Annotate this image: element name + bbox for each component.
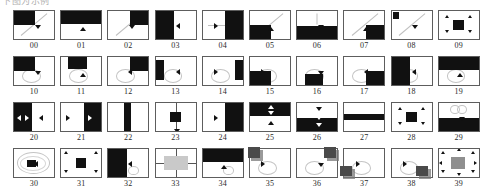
thumbnail-15[interactable] xyxy=(249,56,291,86)
thumbnail-23[interactable] xyxy=(155,102,197,132)
thumbnail-33[interactable] xyxy=(155,148,197,178)
grid-cell[interactable]: 21 xyxy=(60,102,107,148)
thumbnail-label: 12 xyxy=(107,87,149,97)
grid-cell[interactable]: 33 xyxy=(155,148,202,193)
grid-cell[interactable]: 03 xyxy=(155,10,202,56)
thumbnail-31[interactable] xyxy=(60,148,102,178)
grid-cell[interactable]: 39 xyxy=(438,148,485,193)
thumbnail-21[interactable] xyxy=(60,102,102,132)
grid-cell[interactable]: 28 xyxy=(391,102,438,148)
grid-cell[interactable]: 13 xyxy=(155,56,202,102)
thumbnail-13[interactable] xyxy=(155,56,197,86)
thumbnail-label: 32 xyxy=(107,179,149,189)
grid-cell[interactable]: 29 xyxy=(438,102,485,148)
grid-cell[interactable]: 11 xyxy=(60,56,107,102)
grid-cell[interactable]: 31 xyxy=(60,148,107,193)
grid-cell[interactable]: 35 xyxy=(249,148,296,193)
thumbnail-label: 14 xyxy=(202,87,244,97)
grid-cell[interactable]: 09 xyxy=(438,10,485,56)
thumbnail-10[interactable] xyxy=(13,56,55,86)
grid-cell[interactable]: 00 xyxy=(13,10,60,56)
grid-cell[interactable]: 25 xyxy=(249,102,296,148)
thumbnail-04[interactable] xyxy=(202,10,244,40)
grid-cell[interactable]: 19 xyxy=(438,56,485,102)
fill-region xyxy=(366,71,384,85)
thumbnail-34[interactable] xyxy=(202,148,244,178)
thumbnail-14[interactable] xyxy=(202,56,244,86)
thumbnail-35[interactable] xyxy=(249,148,291,178)
thumbnail-38[interactable] xyxy=(391,148,433,178)
grid-cell[interactable]: 05 xyxy=(249,10,296,56)
thumbnail-28[interactable] xyxy=(391,102,433,132)
grid-cell[interactable]: 34 xyxy=(202,148,249,193)
thumbnail-30[interactable] xyxy=(13,148,55,178)
thumbnail-24[interactable] xyxy=(202,102,244,132)
thumbnail-03[interactable] xyxy=(155,10,197,40)
thumbnail-20[interactable] xyxy=(13,102,55,132)
arrow-down-icon xyxy=(316,123,322,127)
grid-cell[interactable]: 26 xyxy=(296,102,343,148)
grid-cell[interactable]: 18 xyxy=(391,56,438,102)
thumbnail-26[interactable] xyxy=(296,102,338,132)
grid-cell[interactable]: 32 xyxy=(107,148,154,193)
arrow-up-icon xyxy=(221,165,227,169)
thumbnail-16[interactable] xyxy=(296,56,338,86)
fill-region xyxy=(393,12,399,18)
grid-cell[interactable]: 01 xyxy=(60,10,107,56)
grid-cell[interactable]: 10 xyxy=(13,56,60,102)
grid-cell[interactable]: 15 xyxy=(249,56,296,102)
grid-cell[interactable]: 36 xyxy=(296,148,343,193)
thumbnail-09[interactable] xyxy=(438,10,480,40)
thumbnail-08[interactable] xyxy=(391,10,433,40)
arrow-up-icon xyxy=(471,151,475,154)
arrow-down-icon xyxy=(268,111,274,115)
grid-cell[interactable]: 17 xyxy=(343,56,390,102)
thumbnail-05[interactable] xyxy=(249,10,291,40)
thumbnail-29[interactable] xyxy=(438,102,480,132)
thumbnail-label: 38 xyxy=(391,179,433,189)
grid-cell[interactable]: 16 xyxy=(296,56,343,102)
thumbnail-22[interactable] xyxy=(107,102,149,132)
grid-cell[interactable]: 12 xyxy=(107,56,154,102)
grid-cell[interactable]: 23 xyxy=(155,102,202,148)
grid-cell[interactable]: 22 xyxy=(107,102,154,148)
grid-cell[interactable]: 08 xyxy=(391,10,438,56)
grid-cell[interactable]: 06 xyxy=(296,10,343,56)
thumbnail-label: 17 xyxy=(343,87,385,97)
thumbnail-37[interactable] xyxy=(343,148,385,178)
grid-cell[interactable]: 14 xyxy=(202,56,249,102)
thumbnail-06[interactable] xyxy=(296,10,338,40)
thumbnail-11[interactable] xyxy=(60,56,102,86)
grid-cell[interactable]: 37 xyxy=(343,148,390,193)
thumbnail-32[interactable] xyxy=(107,148,149,178)
thumbnail-39[interactable] xyxy=(438,148,480,178)
grid-cell[interactable]: 20 xyxy=(13,102,60,148)
arrow-left-icon xyxy=(128,161,132,167)
grid-cell[interactable]: 04 xyxy=(202,10,249,56)
grid-cell[interactable]: 27 xyxy=(343,102,390,148)
thumbnail-label: 03 xyxy=(155,41,197,51)
thumbnail-36[interactable] xyxy=(296,148,338,178)
grid-cell[interactable]: 02 xyxy=(107,10,154,56)
arrow-up-icon xyxy=(457,73,463,77)
arrow-right-icon xyxy=(403,161,407,167)
thumbnail-00[interactable] xyxy=(13,10,55,40)
thumbnail-label: 29 xyxy=(438,133,480,143)
thumbnail-01[interactable] xyxy=(60,10,102,40)
fill-region xyxy=(124,103,130,131)
grid-cell[interactable]: 38 xyxy=(391,148,438,193)
arrow-up-icon xyxy=(468,15,472,18)
thumbnail-27[interactable] xyxy=(343,102,385,132)
thumbnail-18[interactable] xyxy=(391,56,433,86)
thumbnail-12[interactable] xyxy=(107,56,149,86)
grid-cell[interactable]: 30 xyxy=(13,148,60,193)
thumbnail-25[interactable] xyxy=(249,102,291,132)
grid-cell[interactable]: 24 xyxy=(202,102,249,148)
thumbnail-label: 19 xyxy=(438,87,480,97)
thumbnail-19[interactable] xyxy=(438,56,480,86)
thumbnail-17[interactable] xyxy=(343,56,385,86)
thumbnail-07[interactable] xyxy=(343,10,385,40)
thumbnail-02[interactable] xyxy=(107,10,149,40)
grid-cell[interactable]: 07 xyxy=(343,10,390,56)
arrow-left-icon xyxy=(39,115,43,121)
